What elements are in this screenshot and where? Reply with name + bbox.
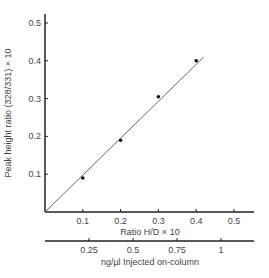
x-tick-label: 0.2 [114, 216, 127, 226]
y-tick-label: 0.3 [28, 94, 41, 104]
secondary-x-tick-label: 0.5 [127, 245, 140, 255]
x-tick-label: 0.5 [228, 216, 241, 226]
x-tick-label: 0.1 [77, 216, 90, 226]
y-axis-title: Peak height ratio (328/331) × 10 [3, 49, 13, 178]
data-point [119, 138, 123, 142]
fit-line [45, 57, 204, 212]
data-point [81, 176, 85, 180]
data-point [157, 95, 161, 99]
y-tick-label: 0.4 [28, 56, 41, 66]
secondary-x-tick-label: 0.75 [168, 245, 186, 255]
y-tick-label: 0.5 [28, 18, 41, 28]
data-point [194, 59, 198, 63]
y-tick-label: 0.2 [28, 131, 41, 141]
x-axis-title: Ratio H/D × 10 [120, 227, 179, 237]
secondary-x-tick-label: 1 [218, 245, 223, 255]
chart: 0.10.20.30.40.5 0.10.20.30.40.5 0.250.50… [0, 0, 269, 278]
y-tick-label: 0.1 [28, 169, 41, 179]
secondary-x-tick-label: 0.25 [80, 245, 98, 255]
x-tick-label: 0.3 [152, 216, 165, 226]
x-tick-label: 0.4 [190, 216, 203, 226]
secondary-x-axis-title: ng/µl Injected on-column [101, 257, 199, 267]
